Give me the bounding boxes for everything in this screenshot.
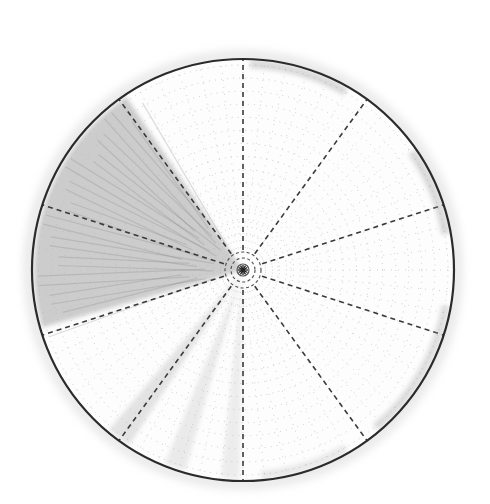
center-dot <box>241 268 245 272</box>
polar-grid-diagram <box>0 0 490 504</box>
